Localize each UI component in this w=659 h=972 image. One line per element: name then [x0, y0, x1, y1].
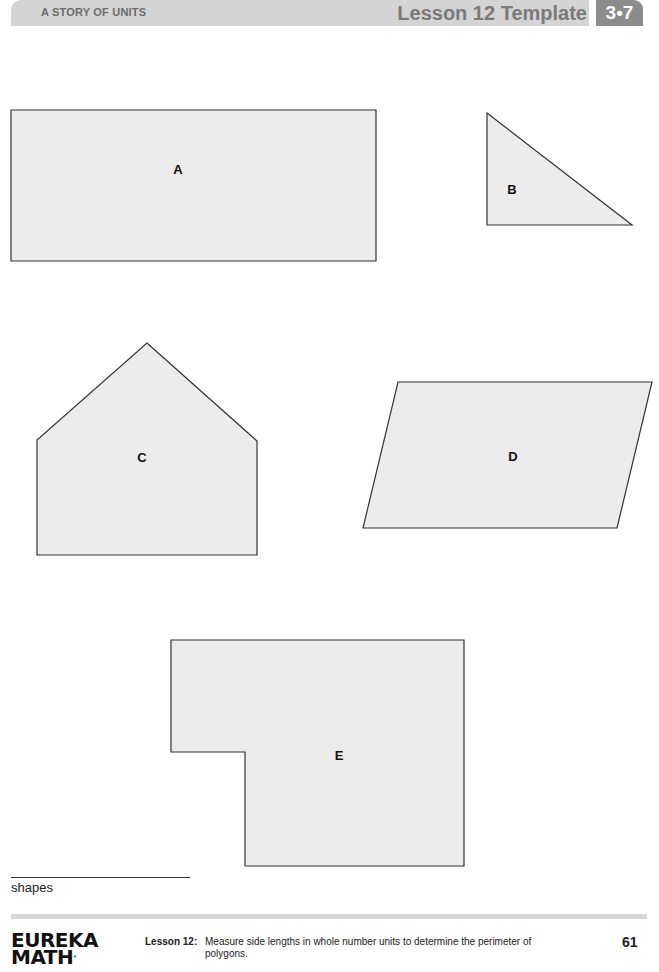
shape-d-label: D — [508, 449, 517, 464]
caption-rule — [11, 877, 190, 878]
page-number: 61 — [622, 934, 638, 950]
shape-c-pentagon — [37, 343, 257, 555]
shape-c-label: C — [137, 450, 146, 465]
logo-registered-mark: ° — [73, 954, 76, 961]
caption-text: shapes — [11, 880, 53, 895]
shape-b-triangle — [487, 113, 632, 225]
footer-lesson-description: Measure side lengths in whole number uni… — [205, 936, 535, 960]
logo-line-math: MATH — [11, 945, 73, 969]
eureka-math-logo: EUREKA MATH° — [11, 932, 98, 966]
footer-divider — [11, 914, 647, 919]
shape-b-label: B — [507, 182, 516, 197]
shapes-canvas — [0, 0, 659, 972]
shape-e-l-shape — [171, 640, 464, 866]
shape-a-label: A — [173, 162, 182, 177]
shape-a-rectangle — [11, 110, 376, 261]
shape-e-label: E — [335, 748, 344, 763]
footer-lesson-label: Lesson 12: — [145, 936, 197, 947]
